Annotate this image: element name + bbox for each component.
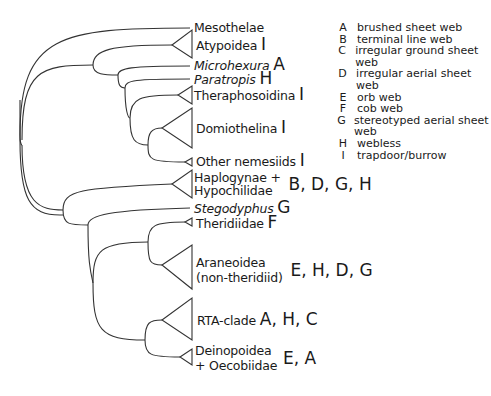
clade-triangle-araneoidea bbox=[162, 245, 192, 289]
branch-microhexura bbox=[118, 66, 190, 75]
legend-row: Dirregular aerial sheet web bbox=[333, 68, 491, 91]
legend-row: Hwebless bbox=[333, 138, 491, 150]
clade-triangle-other-nemesiids bbox=[185, 158, 192, 166]
branch-theridiidae bbox=[148, 222, 185, 242]
clade-triangle-domiothelina bbox=[162, 108, 192, 148]
branch-other-nemesiids bbox=[148, 145, 185, 162]
clade-triangle-theridiidae bbox=[185, 218, 192, 226]
taxon-label-paratropis: Paratropis H bbox=[194, 72, 272, 86]
branch-araneomorphae bbox=[22, 145, 63, 210]
clade-triangle-rta bbox=[162, 298, 192, 340]
branch-rta-node bbox=[93, 283, 145, 340]
legend-row: Cirregular ground sheet web bbox=[333, 45, 491, 68]
taxon-label-domiothelina: Domiothelina I bbox=[196, 121, 286, 135]
branch-mygalomorphae bbox=[22, 65, 93, 140]
branch-theraphosoidina bbox=[130, 95, 178, 118]
branch-paratropis bbox=[125, 79, 190, 88]
legend-row: Abrushed sheet web bbox=[333, 22, 491, 34]
branch-rest-node bbox=[88, 225, 93, 283]
branch-araneoidea-node bbox=[93, 242, 148, 283]
taxon-label-mesothelae: Mesothelae bbox=[194, 21, 264, 34]
branch-paratropis-node bbox=[118, 75, 125, 88]
legend-row: Gstereotyped aerial sheet web bbox=[333, 115, 491, 138]
taxon-label-deinopoidea: Deinopoidea+ Oecobiidae E, A bbox=[195, 343, 316, 373]
branch-thera-node bbox=[125, 88, 130, 118]
branch-domio-node bbox=[130, 118, 148, 145]
branch-atypoidea bbox=[93, 45, 172, 65]
branch-root-stem bbox=[20, 100, 63, 215]
clade-triangle-haplogynae bbox=[172, 170, 192, 198]
web-type-legend: Abrushed sheet web Bterminal line web Ci… bbox=[333, 22, 491, 161]
taxon-label-other-nemesiids: Other nemesiids I bbox=[196, 154, 305, 168]
taxon-label-araneoidea: Araneoidea(non-theridiid) E, H, D, G bbox=[196, 255, 373, 285]
branch-domiothelina bbox=[148, 128, 162, 145]
taxon-label-rta-clade: RTA-clade A, H, C bbox=[197, 313, 318, 327]
clade-triangle-deinopoidea bbox=[180, 349, 192, 365]
clade-triangle-atypoidea bbox=[172, 30, 192, 58]
taxon-label-haplogynae: Haplogynae +Hypochilidae B, D, G, H bbox=[194, 171, 372, 197]
taxon-label-theraphosoidina: Theraphosoidina I bbox=[194, 88, 304, 102]
taxon-label-theridiidae: Theridiidae F bbox=[196, 216, 277, 230]
branch-avicularioidea bbox=[93, 65, 118, 75]
branch-deinopoidea bbox=[145, 340, 180, 357]
branch-rta bbox=[145, 320, 162, 340]
clade-triangle-theraphosoidina bbox=[178, 86, 192, 104]
branch-araneoidea bbox=[148, 242, 162, 265]
legend-row: Fcob web bbox=[333, 103, 491, 115]
branch-entelegynae bbox=[63, 210, 88, 225]
taxon-label-atypoidea: Atypoidea I bbox=[196, 38, 266, 52]
legend-row: Itrapdoor/burrow bbox=[333, 150, 491, 162]
branch-haplogynae bbox=[63, 184, 172, 210]
